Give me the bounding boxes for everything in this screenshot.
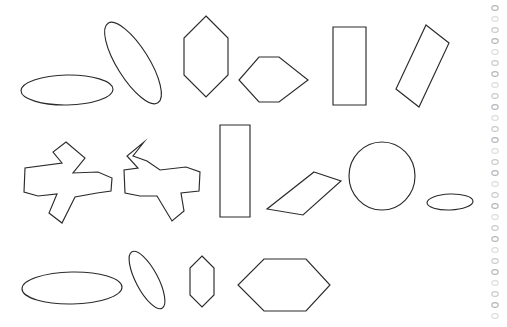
rectangle-vertical-top: Vertical rectangle: [333, 27, 366, 105]
shapes-canvas: Flat ellipseTilted narrow ellipseVertica…: [0, 0, 507, 327]
ellipse-tilted-bottom: Tilted narrow ellipse: [122, 247, 171, 314]
circle-middle: Circle: [349, 142, 415, 210]
ellipse-flat-top-left: Flat ellipse: [21, 74, 114, 106]
ellipse-small-middle-right: Small flat ellipse: [427, 193, 474, 211]
shapes-page: Flat ellipseTilted narrow ellipseVertica…: [0, 0, 507, 327]
hexagon-large-horizontal-bottom: Large horizontal hexagon: [238, 259, 330, 311]
hexagon-small-vertical-bottom: Small vertical hexagon: [190, 256, 214, 307]
rectangle-vertical-middle: Vertical rectangle: [220, 125, 250, 217]
shapes-group: Flat ellipseTilted narrow ellipseVertica…: [21, 15, 474, 314]
cross-irregular-right: Irregular cross mirrored: [124, 142, 200, 221]
parallelogram-tilted-middle: Tilted parallelogram: [267, 172, 341, 215]
cross-irregular-left: Irregular cross: [24, 142, 112, 223]
hexagon-horizontal-top: Horizontal hexagon: [239, 57, 308, 102]
ellipse-wide-bottom-left: Wide flat ellipse: [22, 271, 123, 305]
rectangle-tilted-top-right: Tilted rectangle: [396, 25, 449, 107]
hexagon-vertical-top: Vertical hexagon: [184, 16, 228, 97]
